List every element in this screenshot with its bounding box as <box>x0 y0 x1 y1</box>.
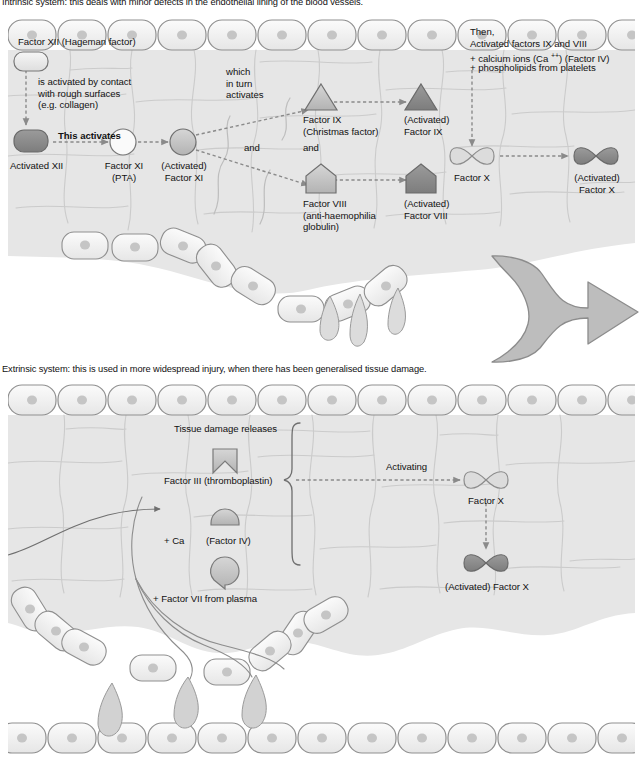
label-activated-viii: (Activated) Factor VIII <box>404 198 449 221</box>
endothelium-top-row-extrinsic <box>8 385 635 415</box>
activated-xi-shape <box>170 129 196 155</box>
label-factor-viii: Factor VIII (anti-haemophilia globulin) <box>303 198 376 233</box>
label-and-below-ix: and <box>303 142 319 154</box>
label-activated-x-extrinsic: (Activated) Factor X <box>432 581 542 593</box>
label-factor-vii: + Factor VII from plasma <box>153 593 257 605</box>
label-factor-x-extrinsic: Factor X <box>458 495 514 507</box>
label-factor-ix: Factor IX (Christmas factor) <box>303 114 378 137</box>
activated-xii-shape <box>14 130 48 152</box>
label-activated-x-intrinsic: (Activated) Factor X <box>566 172 628 195</box>
label-activated-ix: (Activated) Factor IX <box>404 114 449 137</box>
label-then-line4: + phospholipids from platelets <box>470 62 596 74</box>
label-tissue-damage-releases: Tissue damage releases <box>174 423 277 435</box>
factor-xii-shape <box>14 52 48 71</box>
label-factor-xi: Factor XI (PTA) <box>96 160 152 183</box>
label-factor-iii: Factor III (thromboplastin) <box>164 475 272 487</box>
label-activated-xii: Activated XII <box>10 160 63 172</box>
label-activating: Activating <box>386 461 427 473</box>
label-factor-iv: (Factor IV) <box>206 535 251 547</box>
intrinsic-system-caption: Intrinsic system: this deals with minor … <box>2 0 363 8</box>
label-then: Then, <box>470 26 494 38</box>
merge-arrow <box>470 252 643 364</box>
label-this-activates: This activates <box>58 130 121 142</box>
label-and-connector: and <box>244 142 260 154</box>
label-plus-ca: + Ca <box>164 535 184 547</box>
label-factor-x-intrinsic: Factor X <box>444 172 500 184</box>
label-activation-note: is activated by contact with rough surfa… <box>38 76 131 111</box>
extrinsic-system-caption: Extrinsic system: this is used in more w… <box>2 364 427 375</box>
label-factor-xii: Factor XII (Hageman factor) <box>18 36 136 48</box>
extrinsic-pathway-panel: Tissue damage releases Factor III (throm… <box>8 383 635 759</box>
label-which-in-turn-activates: which in turn activates <box>226 66 263 101</box>
label-then-line2: Activated factors IX and VIII <box>470 38 587 50</box>
label-calcium-charge: ++ <box>551 52 559 59</box>
label-activated-xi: (Activated) Factor XI <box>154 160 214 183</box>
